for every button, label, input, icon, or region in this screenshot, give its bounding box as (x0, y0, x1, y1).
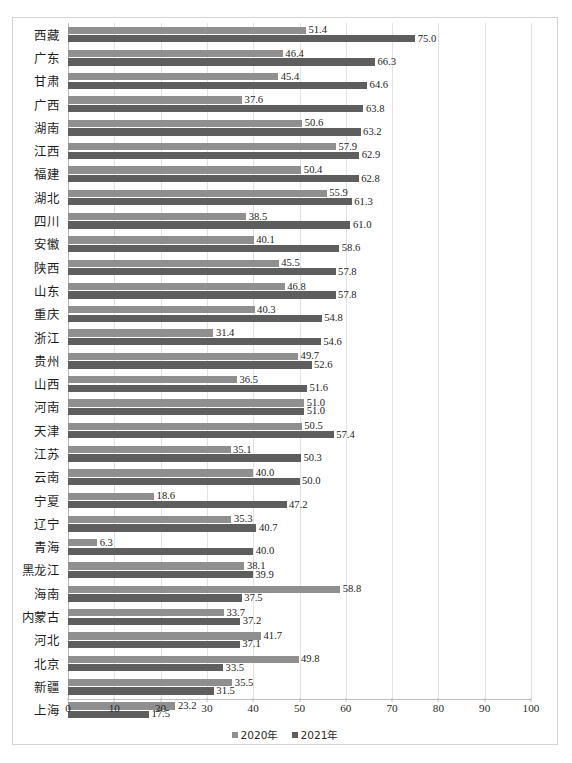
bar-group: 重庆40.354.8 (68, 303, 531, 326)
bar-2021年: 61.0 (68, 221, 350, 228)
x-tick-label-10: 10 (109, 702, 120, 714)
bar-value-label: 57.4 (336, 429, 355, 440)
category-label: 福建 (34, 165, 59, 183)
bar-value-label: 58.6 (342, 243, 361, 254)
bar-group: 湖南50.663.2 (68, 116, 531, 139)
category-label: 陕西 (34, 259, 59, 277)
bar-value-label: 37.1 (242, 639, 261, 650)
bar-value-label: 62.8 (361, 173, 380, 184)
x-tick-label-0: 0 (65, 702, 71, 714)
category-label: 辽宁 (34, 515, 59, 533)
bar-2021年: 40.7 (68, 524, 256, 531)
bar-group: 湖北55.961.3 (68, 186, 531, 209)
bar-value-label: 40.1 (256, 235, 275, 246)
x-axis-tick-labels: 0102030405060708090100 (68, 702, 531, 720)
bar-value-label: 63.8 (366, 103, 385, 114)
category-label: 广西 (34, 96, 59, 114)
legend-item-2021年[interactable]: 2021年 (292, 727, 339, 742)
bar-group: 河南51.051.0 (68, 396, 531, 419)
bar-value-label: 40.0 (256, 546, 275, 557)
bar-group: 山东46.857.8 (68, 279, 531, 302)
bar-group: 江西57.962.9 (68, 139, 531, 162)
bar-2021年: 52.6 (68, 361, 312, 368)
bar-2021年: 75.0 (68, 35, 415, 42)
category-label: 广东 (34, 49, 59, 67)
bar-group: 浙江31.454.6 (68, 326, 531, 349)
category-label: 贵州 (34, 352, 59, 370)
bar-value-label: 57.8 (338, 266, 357, 277)
bar-2020年: 40.1 (68, 236, 254, 243)
bar-value-label: 51.4 (308, 25, 327, 36)
bar-value-label: 47.2 (289, 499, 308, 510)
bar-value-label: 40.3 (257, 305, 276, 316)
bar-value-label: 54.6 (323, 336, 342, 347)
bar-value-label: 50.6 (305, 118, 324, 129)
category-label: 西藏 (34, 26, 59, 44)
category-label: 上海 (34, 701, 59, 719)
bar-group: 青海6.340.0 (68, 536, 531, 559)
category-label: 新疆 (34, 678, 59, 696)
bar-value-label: 40.7 (259, 523, 278, 534)
bar-2020年: 18.6 (68, 493, 154, 500)
legend-label: 2021年 (301, 727, 339, 742)
bar-value-label: 51.6 (309, 383, 328, 394)
bar-2020年: 58.8 (68, 586, 340, 593)
bar-2020年: 38.5 (68, 213, 246, 220)
bar-group: 贵州49.752.6 (68, 349, 531, 372)
bar-value-label: 36.5 (239, 374, 258, 385)
bar-2020年: 45.5 (68, 260, 279, 267)
bar-group: 安徽40.158.6 (68, 233, 531, 256)
bar-2021年: 50.0 (68, 478, 300, 485)
bar-value-label: 49.8 (301, 654, 320, 665)
bar-2020年: 40.0 (68, 469, 253, 476)
category-label: 江苏 (34, 445, 59, 463)
bar-group: 内蒙古33.737.2 (68, 605, 531, 628)
bar-group: 福建50.462.8 (68, 163, 531, 186)
x-tick-label-40: 40 (248, 702, 259, 714)
bar-2021年: 37.1 (68, 641, 240, 648)
bar-group: 辽宁35.340.7 (68, 512, 531, 535)
bar-2020年: 55.9 (68, 190, 327, 197)
bar-2021年: 54.6 (68, 338, 321, 345)
bar-2021年: 64.6 (68, 82, 367, 89)
bar-2020年: 46.8 (68, 283, 285, 290)
bar-group: 四川38.561.0 (68, 209, 531, 232)
category-label: 浙江 (34, 329, 59, 347)
bar-2021年: 37.2 (68, 618, 240, 625)
category-label: 云南 (34, 468, 59, 486)
bar-2021年: 31.5 (68, 687, 214, 694)
category-label: 内蒙古 (22, 608, 59, 626)
bar-rows: 西藏51.475.0广东46.466.3甘肃45.464.6广西37.663.8… (68, 23, 531, 699)
category-label: 山西 (34, 375, 59, 393)
chart-frame: 西藏51.475.0广东46.466.3甘肃45.464.6广西37.663.8… (12, 17, 558, 745)
bar-value-label: 75.0 (418, 33, 437, 44)
x-tick-label-90: 90 (479, 702, 490, 714)
bar-2021年: 57.8 (68, 291, 336, 298)
bar-2021年: 66.3 (68, 58, 375, 65)
bar-value-label: 63.2 (363, 127, 382, 138)
category-label: 天津 (34, 422, 59, 440)
legend-label: 2020年 (241, 727, 279, 742)
bar-2020年: 33.7 (68, 609, 224, 616)
square-marker (232, 732, 238, 738)
bar-value-label: 35.5 (235, 677, 254, 688)
bar-2021年: 63.2 (68, 128, 361, 135)
bar-2021年: 47.2 (68, 501, 287, 508)
bar-2021年: 57.4 (68, 431, 334, 438)
category-label: 甘肃 (34, 72, 59, 90)
bar-value-label: 54.8 (324, 313, 343, 324)
bar-2020年: 50.5 (68, 423, 302, 430)
bar-2020年: 45.4 (68, 73, 278, 80)
bar-value-label: 50.3 (303, 453, 322, 464)
bar-2020年: 31.4 (68, 329, 213, 336)
bar-value-label: 31.4 (216, 328, 235, 339)
bar-2021年: 51.6 (68, 385, 307, 392)
bar-value-label: 35.3 (234, 514, 253, 525)
bar-2020年: 6.3 (68, 539, 97, 546)
bar-2021年: 40.0 (68, 548, 253, 555)
category-label: 湖南 (34, 119, 59, 137)
bar-2021年: 61.3 (68, 198, 352, 205)
legend-item-2020年[interactable]: 2020年 (232, 727, 279, 742)
x-tick-label-60: 60 (340, 702, 351, 714)
bar-value-label: 18.6 (157, 491, 176, 502)
